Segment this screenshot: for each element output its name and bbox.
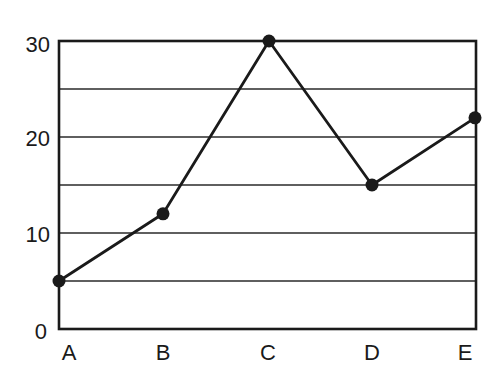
y-tick-label: 10 <box>26 222 50 247</box>
x-tick-label: B <box>156 340 171 365</box>
data-point-b <box>157 207 170 220</box>
x-tick-label: E <box>458 340 473 365</box>
data-point-e <box>469 111 482 124</box>
x-tick-label: C <box>260 340 276 365</box>
y-tick-label: 0 <box>35 319 47 344</box>
data-point-a <box>53 275 66 288</box>
gridlines <box>59 89 476 281</box>
data-point-c <box>263 35 276 48</box>
y-tick-label: 30 <box>26 32 50 57</box>
x-tick-label: D <box>364 340 380 365</box>
series-line <box>59 41 475 281</box>
data-point-d <box>366 179 379 192</box>
x-tick-label: A <box>62 340 77 365</box>
line-chart: 30 20 10 0 A B C D E <box>0 0 497 375</box>
series-markers <box>53 35 482 288</box>
y-tick-label: 20 <box>26 126 50 151</box>
